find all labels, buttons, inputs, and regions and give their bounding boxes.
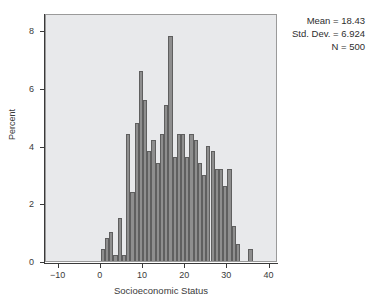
y-axis-tick-label: 8	[8, 27, 34, 36]
histogram-bars	[46, 15, 276, 261]
plot-panel	[45, 14, 277, 262]
y-axis-tick-mark	[40, 89, 44, 90]
histogram-bar	[236, 244, 240, 261]
y-axis-tick-label: 0	[8, 258, 34, 267]
x-axis-tick-mark	[184, 264, 185, 268]
x-axis-tick-label: 0	[80, 270, 120, 280]
x-axis-tick-label: −10	[38, 270, 78, 280]
x-axis-tick-label: 40	[249, 270, 289, 280]
histogram-figure: 02468 Percent −10010203040 Socioeconomic…	[0, 0, 371, 307]
y-axis-tick-mark	[40, 204, 44, 205]
x-axis-tick-mark	[58, 264, 59, 268]
y-axis-tick-mark	[40, 147, 44, 148]
y-axis-tick-mark	[40, 31, 44, 32]
x-axis-line	[44, 263, 278, 264]
stat-n: N = 500	[257, 40, 365, 53]
y-axis-line	[44, 14, 45, 263]
statistics-annotation: Mean = 18.43 Std. Dev. = 6.924 N = 500	[257, 14, 365, 53]
x-axis-tick-mark	[100, 264, 101, 268]
x-axis-tick-mark	[269, 264, 270, 268]
x-axis-tick-label: 20	[164, 270, 204, 280]
x-axis-tick-label: 30	[206, 270, 246, 280]
x-axis-title: Socioeconomic Status	[45, 285, 277, 296]
y-axis-tick-label: 2	[8, 200, 34, 209]
stat-std-dev: Std. Dev. = 6.924	[257, 27, 365, 40]
stat-mean: Mean = 18.43	[257, 14, 365, 27]
x-axis-tick-label: 10	[122, 270, 162, 280]
x-axis-tick-mark	[142, 264, 143, 268]
histogram-bar	[248, 249, 252, 261]
x-axis-tick-mark	[226, 264, 227, 268]
y-axis-title: Percent	[8, 93, 17, 157]
